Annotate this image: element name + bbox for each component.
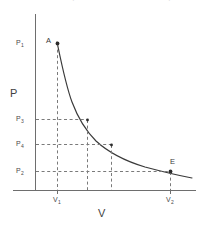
y-axis-title: P [10,88,17,99]
point-marker-e [169,170,173,174]
plot-canvas [0,0,207,225]
x-axis-title: V [98,208,105,219]
y-tick-label-p4: P4 [16,140,24,149]
point-label-e: E [170,158,175,166]
point-marker-p3 [86,119,89,122]
x-tick-label-v2: V2 [166,196,174,205]
point-marker-p4 [110,144,113,147]
x-tick-label-v1: V1 [53,196,61,205]
pv-isotherm-figure: · · P1 P3 P4 P2 V1 V2 P V A E [0,0,207,225]
y-tick-label-p1: P1 [16,39,24,48]
y-tick-label-p2: P2 [16,167,24,176]
y-tick-label-p3: P3 [16,115,24,124]
point-marker-a [56,42,60,46]
point-label-a: A [46,37,51,45]
